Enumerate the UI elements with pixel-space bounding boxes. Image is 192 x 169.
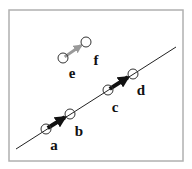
points-group <box>41 37 138 134</box>
diagram-frame <box>9 10 183 161</box>
point-a-label: a <box>50 137 58 153</box>
vector-diagram: abcdef <box>0 0 192 169</box>
point-e-circle <box>58 53 68 63</box>
point-d-label: d <box>137 82 146 98</box>
point-e-label: e <box>69 65 76 81</box>
point-f-circle <box>81 37 91 47</box>
arrows-group <box>48 45 128 128</box>
labels-group: abcdef <box>50 52 146 153</box>
point-f-label: f <box>94 52 100 68</box>
point-c-label: c <box>112 99 119 115</box>
point-b-label: b <box>75 123 83 139</box>
